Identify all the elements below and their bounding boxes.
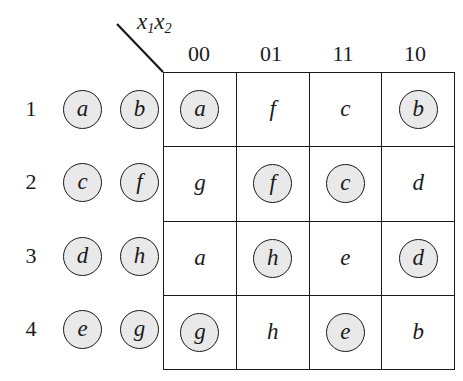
legend-token-g: g: [120, 310, 159, 349]
cell-r1-c00[interactable]: a: [164, 73, 237, 147]
row-number-2: 2: [18, 171, 44, 193]
cell-token: g: [180, 313, 219, 352]
column-header-11: 11: [307, 43, 379, 65]
cell-token: a: [180, 238, 220, 278]
legend-pair-row-1: a b: [63, 89, 159, 129]
cell-r2-c11[interactable]: c: [309, 147, 382, 221]
row-number-3: 3: [18, 245, 44, 267]
column-header-10: 10: [379, 43, 451, 65]
row-number-4: 4: [18, 318, 44, 340]
cell-token: d: [398, 164, 438, 204]
cell-token: h: [253, 239, 292, 278]
cell-token: b: [398, 312, 438, 352]
cell-token: a: [180, 90, 219, 129]
cell-token: e: [326, 313, 365, 352]
legend-token-f: f: [120, 163, 159, 202]
column-header-00: 00: [163, 43, 235, 65]
legend-pair-row-3: d h: [63, 236, 159, 276]
legend-token-d: d: [63, 237, 102, 276]
cell-token: e: [325, 238, 365, 278]
table-row: a f c b: [164, 73, 455, 147]
axis-label-x1x2: x1x2: [137, 10, 172, 35]
cell-token: b: [399, 90, 438, 129]
cell-r3-c01[interactable]: h: [236, 221, 309, 295]
legend-token-h: h: [120, 237, 159, 276]
legend-token-a: a: [63, 90, 102, 129]
cell-token: f: [253, 164, 292, 203]
kmap-grid: a f c b g f c d a h e d g h e b: [163, 72, 455, 370]
cell-token: g: [180, 164, 220, 204]
karnaugh-map-figure: x1x2 00 01 11 10 1 2 3 4 a b c f d h e g…: [0, 0, 463, 381]
axis-variable-2: x: [154, 9, 164, 34]
cell-token: f: [253, 90, 293, 130]
table-row: a h e d: [164, 221, 455, 295]
cell-r4-c01[interactable]: h: [236, 295, 309, 369]
cell-r1-c10[interactable]: b: [382, 73, 455, 147]
cell-r2-c00[interactable]: g: [164, 147, 237, 221]
legend-token-b: b: [120, 90, 159, 129]
axis-subscript-2: 2: [165, 20, 172, 36]
cell-r3-c10[interactable]: d: [382, 221, 455, 295]
column-header-01: 01: [235, 43, 307, 65]
table-row: g h e b: [164, 295, 455, 369]
cell-r4-c11[interactable]: e: [309, 295, 382, 369]
cell-r1-c11[interactable]: c: [309, 73, 382, 147]
cell-r3-c00[interactable]: a: [164, 221, 237, 295]
cell-r1-c01[interactable]: f: [236, 73, 309, 147]
row-number-1: 1: [18, 98, 44, 120]
cell-r4-c10[interactable]: b: [382, 295, 455, 369]
axis-variable-1: x: [137, 9, 147, 34]
cell-token: d: [399, 239, 438, 278]
cell-r3-c11[interactable]: e: [309, 221, 382, 295]
cell-token: h: [253, 312, 293, 352]
legend-token-e: e: [63, 310, 102, 349]
legend-token-c: c: [63, 163, 102, 202]
cell-token: c: [326, 164, 365, 203]
legend-pair-row-2: c f: [63, 162, 159, 202]
cell-r2-c01[interactable]: f: [236, 147, 309, 221]
legend-pair-row-4: e g: [63, 309, 159, 349]
cell-r4-c00[interactable]: g: [164, 295, 237, 369]
cell-token: c: [325, 90, 365, 130]
table-row: g f c d: [164, 147, 455, 221]
cell-r2-c10[interactable]: d: [382, 147, 455, 221]
